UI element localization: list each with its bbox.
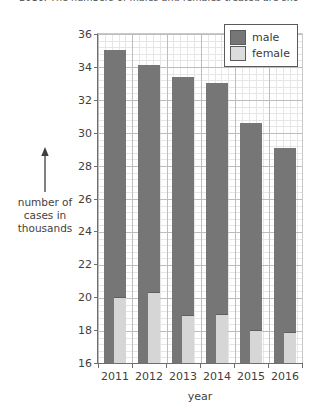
bar-group	[104, 50, 125, 363]
legend-item-female: female	[230, 46, 290, 61]
x-axis-tick-mark	[302, 363, 303, 368]
x-axis-title: year	[97, 390, 303, 403]
y-axis-tick-label: 22	[78, 258, 92, 271]
x-axis-tick-mark	[98, 363, 99, 368]
bar-segment-male	[240, 123, 261, 363]
x-axis-tick-mark	[268, 363, 269, 368]
y-axis-tick-label: 18	[78, 324, 92, 337]
x-axis-tick-label: 2016	[271, 370, 299, 383]
y-axis-tick-mark	[94, 133, 98, 134]
clipped-caption: 2016. The numbers of males and females t…	[0, 0, 318, 4]
bar-segment-female	[250, 330, 262, 363]
x-axis-tick-mark	[200, 363, 201, 368]
y-axis-tick-mark	[94, 166, 98, 167]
bar-segment-female	[114, 297, 126, 363]
bar-group	[274, 148, 295, 363]
bar-segment-female	[284, 332, 296, 363]
x-axis-tick-mark	[166, 363, 167, 368]
legend-item-male: male	[230, 30, 290, 45]
y-axis-tick-mark	[94, 264, 98, 265]
y-axis-tick-mark	[94, 231, 98, 232]
y-axis-tick-label: 32	[78, 93, 92, 106]
x-axis-tick-label: 2011	[101, 370, 129, 383]
bar-group	[138, 65, 159, 363]
y-axis-tick-mark	[94, 67, 98, 68]
legend-swatch-female	[230, 46, 246, 61]
bar-segment-female	[216, 314, 228, 363]
y-axis-tick-label: 28	[78, 159, 92, 172]
y-axis-tick-label: 34	[78, 60, 92, 73]
y-axis-title-line-1: number of	[6, 196, 84, 209]
bar-segment-male	[274, 148, 295, 363]
legend-label-female: female	[252, 47, 290, 60]
up-arrow-icon	[38, 147, 52, 192]
bar-segment-female	[148, 292, 160, 363]
bar-segment-female	[182, 315, 194, 363]
x-axis-tick-mark	[234, 363, 235, 368]
x-axis-tick-label: 2014	[203, 370, 231, 383]
x-axis-tick-label: 2015	[237, 370, 265, 383]
y-axis-title-line-3: thousands	[6, 222, 84, 235]
y-axis-tick-label: 36	[78, 28, 92, 41]
y-axis-tick-label: 16	[78, 357, 92, 370]
y-axis-tick-label: 20	[78, 291, 92, 304]
chart-plot-area: 1618202224262830323436 20112012201320142…	[97, 33, 303, 364]
x-axis-tick-mark	[132, 363, 133, 368]
chart-legend: male female	[224, 24, 298, 67]
y-axis-tick-mark	[94, 297, 98, 298]
y-axis-tick-mark	[94, 330, 98, 331]
x-axis-tick-label: 2013	[169, 370, 197, 383]
y-axis-tick-label: 30	[78, 126, 92, 139]
x-axis-tick-label: 2012	[135, 370, 163, 383]
y-axis-title-line-2: cases in	[6, 209, 84, 222]
bar-group	[172, 77, 193, 363]
y-axis-tick-mark	[94, 100, 98, 101]
bar-group	[240, 123, 261, 363]
bar-series-container	[98, 34, 302, 363]
y-axis-title: number of cases in thousands	[6, 196, 84, 235]
y-axis-tick-mark	[94, 199, 98, 200]
legend-swatch-male	[230, 30, 246, 45]
legend-label-male: male	[252, 31, 279, 44]
bar-group	[206, 83, 227, 363]
y-axis-tick-mark	[94, 34, 98, 35]
